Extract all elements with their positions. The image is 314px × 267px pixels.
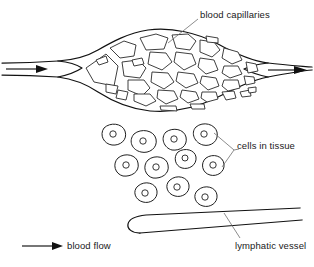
lymphatic-vessel [128,208,302,233]
label-cells-in-tissue: cells in tissue [237,141,295,151]
capillary-bed-diagram: blood capillaries cells in tissue lympha… [0,0,314,267]
tissue-cell [167,177,189,197]
tissue-cell [102,124,126,145]
tissue-cell [193,124,217,146]
legend-blood-flow-arrow [22,242,63,250]
tissue-cell [195,187,217,207]
tissue-cell [145,157,168,178]
inflow-arrow [6,65,48,73]
tissue-cell [163,129,186,150]
label-blood-capillaries: blood capillaries [200,10,270,20]
outflow-arrow [268,66,307,74]
tissue-cell [115,155,138,176]
diagram-canvas [0,0,314,267]
tissue-cell [131,131,156,153]
label-lymphatic-vessel: lymphatic vessel [235,241,306,251]
tissue-cell [135,183,157,203]
label-blood-flow: blood flow [67,241,111,251]
tissue-cell [203,156,225,176]
tissue-cells-group [102,124,224,207]
tissue-cell [175,150,196,169]
